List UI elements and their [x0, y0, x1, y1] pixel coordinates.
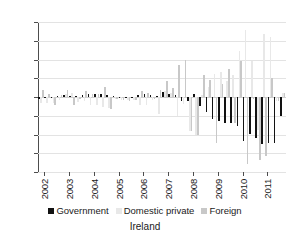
- bar-dom: [46, 97, 48, 103]
- bar-dom: [146, 97, 148, 105]
- legend-swatch-icon: [116, 208, 122, 214]
- x-axis-tick-mark: [119, 172, 120, 176]
- x-axis-tick-label: 2007: [163, 179, 174, 199]
- bar-chart: 403020100−10−20−30−40 200220032004200520…: [0, 0, 290, 242]
- x-axis-tick-mark: [218, 172, 219, 176]
- x-axis-tick-mark: [69, 172, 70, 176]
- legend-swatch-icon: [48, 208, 54, 214]
- x-axis-tick-label: 2005: [114, 179, 125, 199]
- x-axis-tick-mark: [143, 172, 144, 176]
- x-axis-tick-mark: [193, 172, 194, 176]
- bar-dom: [245, 30, 247, 98]
- x-axis-tick-mark: [243, 172, 244, 176]
- chart-legend: GovernmentDomestic privateForeign: [0, 205, 290, 216]
- bar-for: [191, 97, 193, 131]
- bar-dom: [139, 97, 141, 105]
- legend-item: Foreign: [201, 205, 241, 216]
- legend-swatch-icon: [201, 208, 207, 214]
- bar-dom: [251, 61, 253, 97]
- bar-gov: [212, 97, 214, 119]
- bar-for: [209, 80, 211, 97]
- bar-gov: [280, 97, 282, 116]
- bar-gov: [274, 97, 276, 143]
- x-axis-tick-label: 2006: [138, 179, 149, 199]
- x-axis-tick-label: 2003: [64, 179, 75, 199]
- plot-area: [38, 22, 286, 172]
- x-axis-tick-label: 2008: [188, 179, 199, 199]
- bar-for: [73, 97, 75, 105]
- x-axis-tick-mark: [44, 172, 45, 176]
- bar-for: [135, 97, 137, 100]
- legend-label: Domestic private: [124, 205, 195, 216]
- bar-for: [284, 93, 286, 97]
- legend-label: Foreign: [209, 205, 241, 216]
- bar-for: [271, 78, 273, 97]
- bar-dom: [59, 97, 61, 100]
- bar-dom: [263, 34, 265, 97]
- bar-for: [228, 69, 230, 97]
- bar-for: [240, 61, 242, 97]
- bar-dom: [90, 97, 92, 105]
- bar-dom: [158, 97, 160, 114]
- bar-for: [79, 97, 81, 99]
- bar-for: [185, 60, 187, 97]
- bar-dom: [40, 97, 42, 103]
- bar-dom: [177, 97, 179, 116]
- x-axis-tick-label: 2004: [89, 179, 100, 199]
- x-axis-tick-mark: [168, 172, 169, 176]
- bar-gov: [249, 97, 251, 134]
- x-axis-tick-label: 2002: [39, 179, 50, 199]
- bar-gov: [224, 97, 226, 123]
- x-axis-tick-mark: [267, 172, 268, 176]
- bar-gov: [268, 97, 270, 143]
- bar-for: [222, 84, 224, 97]
- bar-for: [203, 75, 205, 97]
- bar-dom: [102, 97, 104, 107]
- bar-gov: [243, 97, 245, 141]
- x-axis-tick-mark: [94, 172, 95, 176]
- bar-gov: [261, 97, 263, 144]
- bar-for: [178, 65, 180, 97]
- bar-gov: [199, 97, 201, 106]
- bar-dom: [96, 97, 98, 105]
- chart-caption: Ireland: [0, 221, 290, 232]
- y-axis-tick-mark: [34, 172, 38, 173]
- bar-for: [54, 97, 56, 105]
- bar-gov: [237, 97, 239, 126]
- bar-dom: [232, 75, 234, 97]
- bar-for: [42, 90, 44, 98]
- bar-for: [154, 97, 156, 99]
- bar-dom: [84, 97, 86, 101]
- legend-label: Government: [56, 205, 108, 216]
- gridline: [38, 172, 286, 173]
- bar-gov: [206, 97, 208, 112]
- x-axis-tick-label: 2010: [238, 179, 249, 199]
- x-axis-tick-label: 2011: [262, 179, 273, 199]
- bar-gov: [218, 97, 220, 121]
- bar-gov: [230, 97, 232, 123]
- legend-item: Government: [48, 205, 108, 216]
- bar-dom: [214, 74, 216, 97]
- bar-dom: [183, 97, 185, 104]
- legend-item: Domestic private: [116, 205, 195, 216]
- bar-for: [110, 97, 112, 109]
- x-axis-tick-label: 2009: [213, 179, 224, 199]
